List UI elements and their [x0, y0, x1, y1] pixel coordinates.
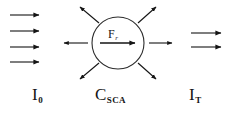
scatter-down-right-arrow — [138, 63, 156, 79]
scatter-down-left-arrow — [80, 63, 99, 79]
scattering-cross-section-subscript: SCA — [107, 95, 126, 105]
incident-intensity-label: I0 — [32, 86, 43, 105]
incident-intensity-subscript: 0 — [38, 95, 43, 105]
scattering-diagram: I0 CSCA IT Fr — [0, 0, 233, 118]
radiation-force-label: Fr — [108, 25, 118, 42]
transmitted-beam-arrows — [191, 33, 221, 47]
scatter-up-left-arrow — [80, 7, 99, 23]
scattering-cross-section-symbol: C — [95, 85, 107, 104]
incident-beam-arrows — [10, 15, 39, 62]
transmitted-intensity-subscript: T — [195, 95, 201, 105]
transmitted-intensity-label: IT — [189, 86, 201, 105]
scatter-up-right-arrow — [138, 7, 156, 23]
scattering-cross-section-label: CSCA — [95, 86, 126, 105]
radiation-force-subscript: r — [115, 34, 118, 42]
